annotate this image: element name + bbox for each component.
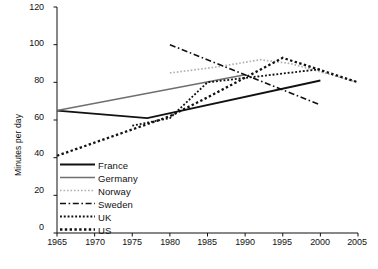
- series-line-germany: [57, 75, 245, 111]
- series-line-us: [57, 58, 358, 156]
- series-line-norway: [170, 60, 358, 83]
- plot-area: [0, 0, 378, 269]
- chart-container: Minutes per day 120 100 80 60 40 20 0 19…: [0, 0, 378, 269]
